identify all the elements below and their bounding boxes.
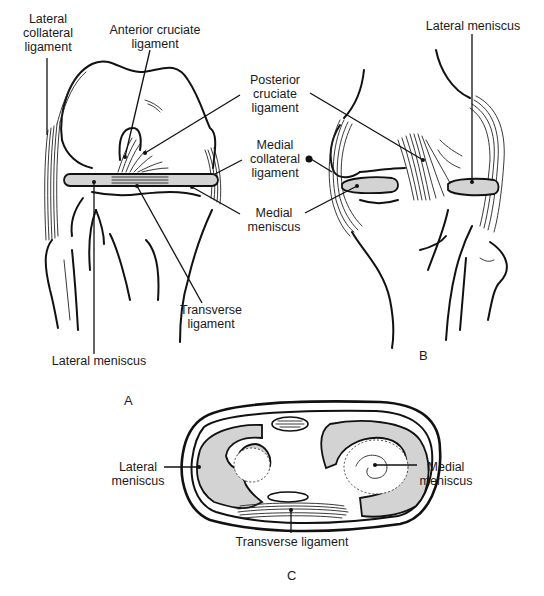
label-anterior-cruciate-ligament: Anterior cruciate ligament — [100, 23, 210, 51]
lateral-tibial-articular-surface — [234, 448, 270, 482]
anterior-attachment — [268, 492, 308, 502]
label-lateral-meniscus-a: Lateral meniscus — [46, 354, 152, 368]
panel-label-a: A — [124, 393, 133, 408]
panel-label-c: C — [287, 568, 296, 583]
lateral-collateral-ligament-fibers — [45, 72, 86, 240]
femur-a — [61, 61, 215, 168]
panel-c-tibial-plateau — [164, 401, 440, 533]
leader-anterior-cruciate — [125, 50, 150, 157]
label-medial-meniscus-c: Medial meniscus — [416, 460, 476, 488]
tibia-b — [352, 232, 393, 348]
medial-tibial-articular-surface — [344, 440, 408, 494]
lateral-collateral-ligament-fibers-b — [470, 96, 504, 232]
leader-posterior-cruciate-b — [310, 93, 423, 160]
femur-b — [344, 70, 364, 118]
leader-medial-meniscus-a — [192, 187, 240, 214]
medial-meniscus-b — [342, 177, 398, 193]
tibia-a — [92, 192, 200, 196]
posterior-cruciate-ligament-fibers — [398, 134, 454, 200]
label-medial-meniscus-a: Medial meniscus — [244, 206, 304, 234]
leader-transverse-a — [137, 186, 202, 303]
panel-b-knee-posterior — [305, 34, 507, 348]
label-lateral-collateral-ligament: Lateral collateral ligament — [20, 12, 76, 54]
label-lateral-meniscus-c: Lateral meniscus — [110, 460, 166, 488]
label-medial-collateral-ligament: Medial collateral ligament — [240, 138, 310, 180]
label-lateral-meniscus-b: Lateral meniscus — [420, 19, 526, 33]
leader-posterior-cruciate-a — [145, 95, 240, 153]
label-transverse-ligament-c: Transverse ligament — [230, 535, 354, 549]
panel-label-b: B — [419, 348, 428, 363]
label-posterior-cruciate-ligament: Posterior cruciate ligament — [240, 73, 310, 115]
label-transverse-ligament-a: Transverse ligament — [176, 303, 246, 331]
